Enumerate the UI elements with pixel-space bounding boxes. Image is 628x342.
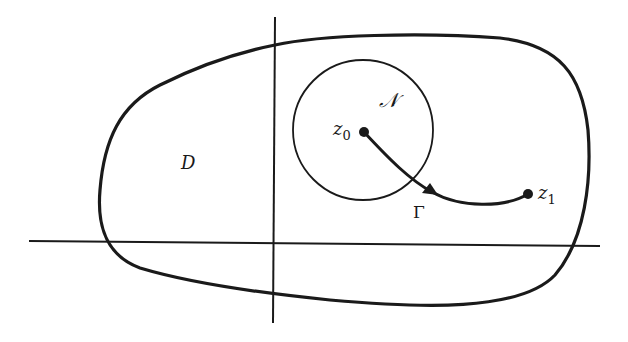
gamma-label: Γ (413, 202, 425, 222)
domain-label: D (180, 152, 196, 173)
point-z1 (523, 189, 533, 199)
path-gamma (364, 132, 528, 204)
z0-label-base: z (332, 118, 343, 139)
domain-boundary (99, 35, 589, 305)
neighborhood-label: 𝒩 (379, 88, 404, 112)
vertical-axis (273, 17, 275, 323)
diagram-canvas: D 𝒩 z0 z1 Γ (0, 0, 628, 342)
horizontal-axis (29, 241, 600, 246)
z1-label-base: z (537, 182, 548, 203)
z1-label-sub: 1 (547, 192, 555, 207)
z1-label: z1 (537, 182, 556, 207)
point-z0 (359, 127, 369, 137)
z0-label: z0 (332, 118, 351, 143)
z0-label-sub: 0 (342, 128, 350, 143)
